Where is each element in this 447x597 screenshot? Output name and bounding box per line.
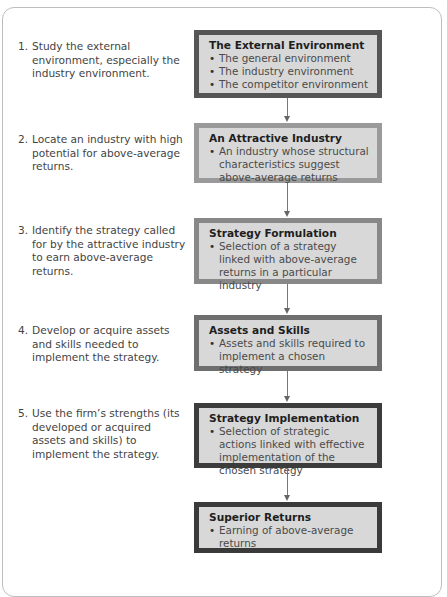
- step-number: 5.: [18, 407, 28, 421]
- arrow-down-icon: [284, 308, 290, 314]
- arrow-down-icon: [284, 495, 290, 501]
- box-title: Assets and Skills: [209, 324, 369, 337]
- box-bullet: Assets and skills required to implement …: [209, 337, 369, 376]
- step-3: 3. Identify the strategy called for by t…: [18, 224, 188, 278]
- arrow-down-icon: [284, 116, 290, 122]
- connector-line: [287, 284, 288, 310]
- box-bullet: Earning of above-average returns: [209, 524, 369, 550]
- step-text: Use the firm’s strengths (its developed …: [18, 407, 188, 461]
- arrow-down-icon: [284, 211, 290, 217]
- step-number: 2.: [18, 133, 28, 147]
- step-1: 1. Study the external environment, espec…: [18, 40, 188, 81]
- step-text: Study the external environment, especial…: [18, 40, 188, 81]
- box-title: Strategy Implementation: [209, 412, 369, 425]
- step-text: Develop or acquire assets and skills nee…: [18, 324, 188, 365]
- box-bullet: The competitor environment: [209, 78, 369, 91]
- box-strategy-formulation: Strategy Formulation Selection of a stra…: [194, 218, 382, 284]
- step-number: 3.: [18, 224, 28, 238]
- box-title: Strategy Formulation: [209, 227, 369, 240]
- box-bullet: An industry whose structural characteris…: [209, 145, 369, 184]
- step-5: 5. Use the firm’s strengths (its develop…: [18, 407, 188, 461]
- box-title: The External Environment: [209, 39, 369, 52]
- box-bullet: Selection of strategic actions linked wi…: [209, 425, 369, 477]
- box-bullet: The general environment: [209, 52, 369, 65]
- step-4: 4. Develop or acquire assets and skills …: [18, 324, 188, 365]
- box-assets-and-skills: Assets and Skills Assets and skills requ…: [194, 315, 382, 371]
- step-number: 1.: [18, 40, 28, 54]
- box-external-environment: The External Environment The general env…: [194, 30, 382, 98]
- box-attractive-industry: An Attractive Industry An industry whose…: [194, 123, 382, 183]
- step-2: 2. Locate an industry with high potentia…: [18, 133, 188, 174]
- arrow-down-icon: [284, 396, 290, 402]
- step-text: Identify the strategy called for by the …: [18, 224, 188, 278]
- box-title: Superior Returns: [209, 511, 369, 524]
- connector-line: [287, 468, 288, 497]
- box-title: An Attractive Industry: [209, 132, 369, 145]
- box-bullet: Selection of a strategy linked with abov…: [209, 240, 369, 292]
- connector-line: [287, 371, 288, 398]
- box-strategy-implementation: Strategy Implementation Selection of str…: [194, 403, 382, 468]
- step-number: 4.: [18, 324, 28, 338]
- figure-caption-strip: [0, 0, 447, 6]
- step-text: Locate an industry with high potential f…: [18, 133, 188, 174]
- connector-line: [287, 183, 288, 213]
- box-bullet: The industry environment: [209, 65, 369, 78]
- connector-line: [287, 98, 288, 118]
- box-superior-returns: Superior Returns Earning of above-averag…: [194, 502, 382, 553]
